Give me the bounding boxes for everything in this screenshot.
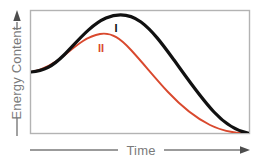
chart-canvas: Energy Content Time I II bbox=[0, 0, 261, 163]
arrow-right-icon bbox=[240, 146, 250, 154]
x-axis-label: Time bbox=[126, 143, 155, 158]
series-label-ii: II bbox=[98, 42, 104, 54]
series-label-i: I bbox=[114, 22, 117, 34]
y-axis-label: Energy Content bbox=[9, 26, 24, 119]
chart-figure: Energy Content Time I II bbox=[0, 0, 261, 163]
arrow-up-icon bbox=[13, 10, 20, 21]
